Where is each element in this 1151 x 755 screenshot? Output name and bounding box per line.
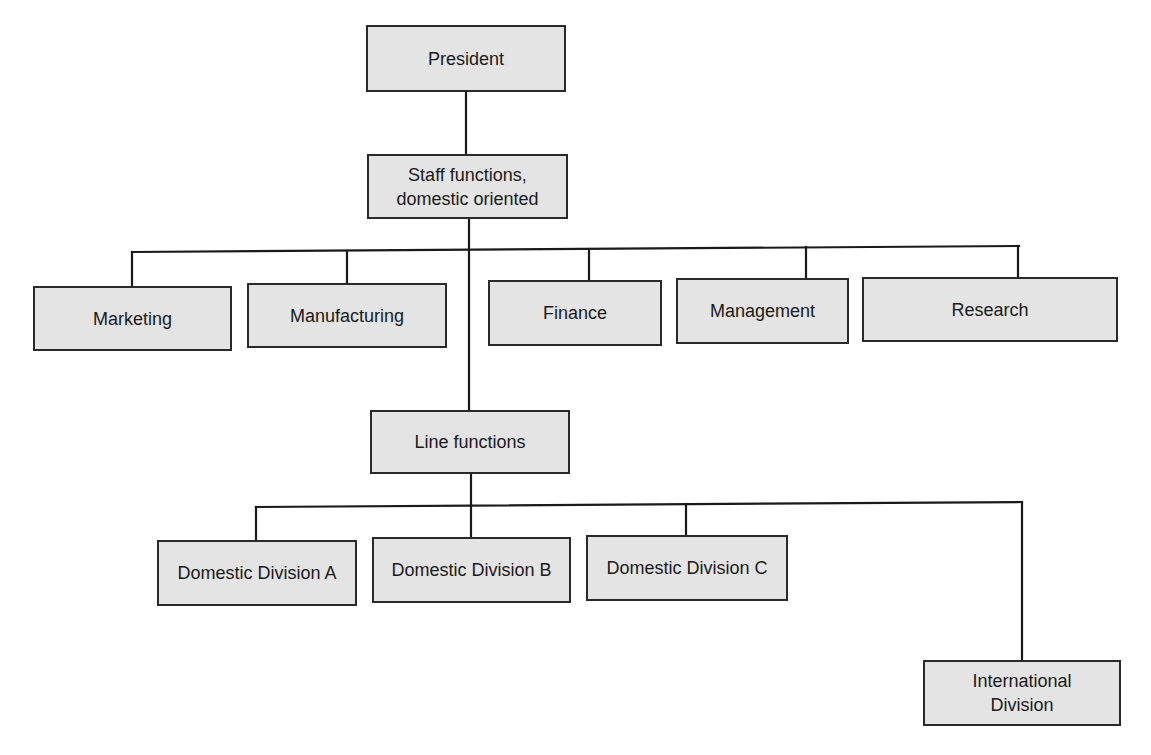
org-node-div-c: Domestic Division C xyxy=(586,535,788,601)
org-node-line: Line functions xyxy=(370,410,570,474)
org-node-div-b: Domestic Division B xyxy=(372,537,571,603)
org-node-management: Management xyxy=(676,278,849,344)
org-node-label: Line functions xyxy=(414,430,525,454)
org-node-marketing: Marketing xyxy=(33,286,232,351)
org-node-staff: Staff functions, domestic oriented xyxy=(367,154,568,219)
org-node-label: International Division xyxy=(972,669,1071,717)
org-node-manufacturing: Manufacturing xyxy=(247,283,447,348)
org-node-president: President xyxy=(366,25,566,92)
org-node-label: Finance xyxy=(543,301,607,325)
org-node-label: Domestic Division C xyxy=(606,556,767,580)
org-node-research: Research xyxy=(862,277,1118,342)
org-chart: PresidentStaff functions, domestic orien… xyxy=(0,0,1151,755)
org-node-label: Staff functions, domestic oriented xyxy=(396,163,538,211)
org-node-finance: Finance xyxy=(488,280,662,346)
org-node-label: Research xyxy=(951,298,1028,322)
connector-line xyxy=(256,502,1022,507)
org-node-div-a: Domestic Division A xyxy=(157,540,357,606)
connector-lines xyxy=(0,0,1151,755)
org-node-label: President xyxy=(428,47,504,71)
connector-line xyxy=(132,246,1019,252)
org-node-label: Domestic Division B xyxy=(391,558,551,582)
org-node-international: International Division xyxy=(923,660,1121,726)
org-node-label: Domestic Division A xyxy=(177,561,336,585)
org-node-label: Management xyxy=(710,299,815,323)
org-node-label: Manufacturing xyxy=(290,304,404,328)
org-node-label: Marketing xyxy=(93,307,172,331)
